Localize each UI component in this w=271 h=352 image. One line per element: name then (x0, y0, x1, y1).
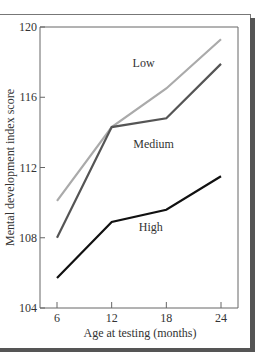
y-tick-label: 104 (19, 301, 37, 315)
y-tick-label: 108 (19, 231, 37, 245)
line-chart: 1041081121161206121824LowMediumHigh (0, 0, 271, 352)
series-label-medium: Medium (133, 137, 174, 151)
x-tick-label: 6 (54, 311, 60, 325)
y-tick-label: 120 (19, 20, 37, 34)
x-tick-label: 24 (215, 311, 227, 325)
x-tick-label: 12 (106, 311, 118, 325)
y-tick-label: 112 (19, 161, 37, 175)
y-axis-label: Mental development index score (3, 68, 18, 268)
x-tick-label: 18 (160, 311, 172, 325)
series-label-low: Low (133, 56, 155, 70)
series-label-high: High (139, 220, 163, 234)
y-tick-label: 116 (19, 90, 37, 104)
x-axis-label: Age at testing (months) (40, 326, 240, 341)
